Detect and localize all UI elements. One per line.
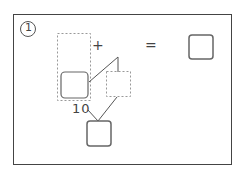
plus-sign: + [92,37,104,53]
answer-box-bottom[interactable] [87,121,111,146]
answer-box-result[interactable] [189,35,213,59]
problem-number: 1 [25,21,32,34]
answer-box-decompose[interactable] [61,72,88,98]
split-line [89,57,118,82]
dashed-part-box [107,72,131,97]
ten-label: 10 [72,101,91,116]
merge-line-right [98,97,117,121]
diagram [0,0,244,170]
equals-sign: = [145,37,157,53]
